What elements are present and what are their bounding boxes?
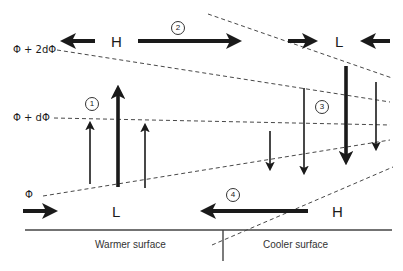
isoline-phi-dphi <box>54 118 390 125</box>
step-1-badge: 1 <box>85 97 99 111</box>
isoline-upper-right <box>208 14 392 78</box>
label-high-bottom: H <box>332 204 343 219</box>
label-warmer-surface: Warmer surface <box>95 240 166 250</box>
step-2-badge: 2 <box>171 21 185 35</box>
step-4-badge: 4 <box>226 188 240 202</box>
label-low-bottom: L <box>112 204 120 219</box>
isoline-phi <box>43 140 390 196</box>
label-phi-2dphi: Φ + 2dΦ <box>13 45 56 55</box>
isoline-phi-2dphi <box>57 50 390 102</box>
label-phi-dphi: Φ + dΦ <box>13 113 50 123</box>
label-high-top: H <box>111 34 122 49</box>
label-cooler-surface: Cooler surface <box>263 240 328 250</box>
step-3-badge: 3 <box>315 100 329 114</box>
label-phi: Φ <box>25 190 33 200</box>
isoline-lower-right <box>212 167 393 245</box>
label-low-top: L <box>335 34 343 49</box>
